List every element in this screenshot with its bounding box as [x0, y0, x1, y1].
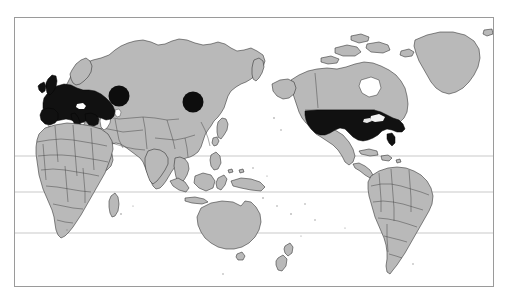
speck-pacific-1 [273, 117, 275, 119]
speck-pacific-9 [314, 219, 315, 220]
antilles-speck [396, 159, 401, 163]
arctic-island-3 [351, 34, 369, 43]
florida [387, 133, 395, 146]
new-guinea [231, 178, 265, 191]
continent-australia [197, 201, 293, 271]
japan [217, 118, 228, 139]
south-america-landmass [368, 167, 433, 274]
region-greenland [400, 29, 493, 94]
arctic-island-1 [335, 45, 361, 56]
speck-pacific-11 [344, 227, 345, 228]
borneo [194, 173, 215, 191]
continent-south-america [368, 167, 433, 274]
kamchatka [252, 58, 264, 81]
world-map [15, 18, 493, 286]
greenland-landmass [414, 32, 480, 94]
new-zealand-south [276, 255, 287, 271]
continent-africa [36, 123, 119, 238]
speck-atlantic-1 [66, 229, 67, 230]
iberia [40, 108, 58, 125]
island-speck-2 [239, 169, 244, 173]
map-frame [14, 17, 494, 287]
australia-landmass [197, 201, 261, 249]
arctic-island-4 [321, 56, 339, 64]
speck-pacific-10 [300, 235, 301, 236]
central-america [353, 163, 373, 178]
java [185, 197, 208, 204]
sumatra [170, 178, 189, 192]
arctic-island-2 [366, 42, 390, 53]
speck-south-1 [222, 273, 223, 274]
japan-south [212, 137, 219, 146]
speck-indian-2 [132, 205, 133, 206]
island-speck-1 [228, 169, 233, 173]
philippines [210, 152, 221, 170]
svalbard [483, 29, 493, 36]
marker-central-russia[interactable] [109, 86, 130, 107]
tasmania [236, 252, 245, 260]
iceland [400, 49, 414, 57]
alaska [272, 79, 296, 99]
speck-atlantic-2 [412, 263, 413, 264]
continent-north-america [272, 34, 408, 178]
speck-pacific-8 [266, 175, 267, 176]
speck-indian-1 [120, 213, 122, 215]
speck-pacific-3 [262, 197, 264, 199]
marker-east-asia[interactable] [183, 92, 204, 113]
speck-pacific-5 [290, 213, 292, 215]
speck-pacific-6 [304, 203, 305, 204]
speck-pacific-7 [252, 167, 253, 168]
ireland [38, 82, 46, 93]
speck-pacific-2 [280, 129, 281, 130]
speck-pacific-4 [276, 205, 277, 206]
madagascar [109, 193, 119, 217]
new-zealand-north [284, 243, 293, 256]
sulawesi [216, 175, 227, 190]
cuba [359, 149, 378, 156]
screenshot-root [0, 0, 508, 305]
